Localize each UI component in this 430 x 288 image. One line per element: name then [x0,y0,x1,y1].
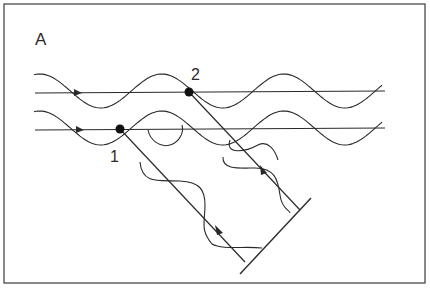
arrow-icon [215,225,223,235]
reflecting-surface [240,198,311,274]
point-label-1: 1 [110,148,119,165]
incident-ray-lower [35,128,385,130]
reflection-point-2 [185,88,194,97]
panel-label: A [35,30,47,49]
reflected-wave-1 [140,162,262,248]
reflection-point-1 [116,125,125,134]
reflected-ray-2 [189,92,300,210]
reflected-ray-1 [120,129,245,262]
incident-ray-upper [35,91,385,93]
diagram: A 1 2 [0,0,430,288]
arrow-icon [76,126,84,133]
wave-fragment [148,125,183,146]
point-label-2: 2 [191,66,200,83]
reflected-wave-2 [223,157,290,213]
